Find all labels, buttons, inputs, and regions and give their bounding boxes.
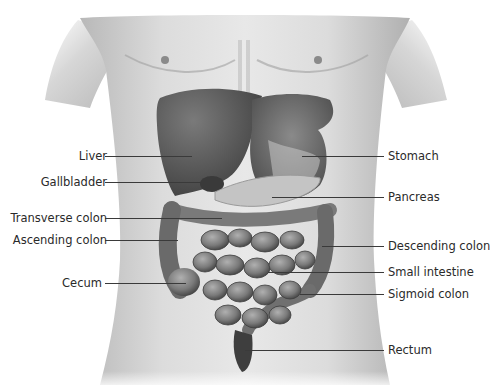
leader-line-sigmoid-colon: [300, 294, 384, 295]
label-stomach: Stomach: [388, 149, 439, 163]
label-sigmoid-colon: Sigmoid colon: [388, 287, 469, 301]
label-ascending-colon: Ascending colon: [13, 233, 107, 247]
label-small-intestine: Small intestine: [388, 265, 474, 279]
left-nipple: [161, 56, 169, 64]
label-rectum: Rectum: [388, 343, 432, 357]
label-gallbladder: Gallbladder: [41, 175, 107, 189]
label-transverse-colon: Transverse colon: [10, 211, 107, 225]
cecum-organ: [168, 268, 200, 296]
leader-line-rectum: [245, 350, 384, 351]
label-liver: Liver: [79, 149, 107, 163]
label-pancreas: Pancreas: [388, 190, 440, 204]
leader-line-cecum: [105, 283, 186, 284]
label-descending-colon: Descending colon: [388, 239, 490, 253]
leader-line-gallbladder: [105, 182, 205, 183]
leader-line-liver: [105, 156, 192, 157]
label-cecum: Cecum: [62, 276, 102, 290]
leader-line-stomach: [302, 156, 384, 157]
leader-line-descending-colon: [322, 246, 384, 247]
leader-line-pancreas: [272, 197, 384, 198]
right-nipple: [314, 56, 322, 64]
leader-line-small-intestine: [268, 272, 384, 273]
leader-line-ascending-colon: [105, 240, 178, 241]
leader-line-transverse-colon: [105, 218, 222, 219]
